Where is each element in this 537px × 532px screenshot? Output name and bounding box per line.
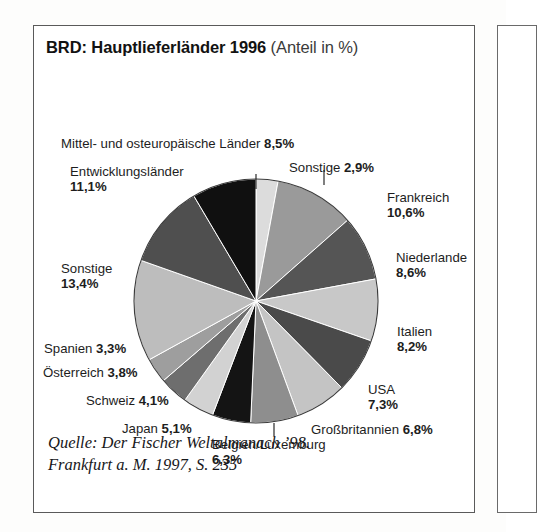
source-citation: Quelle: Der Fischer Weltalmanach ’98. Fr… xyxy=(48,432,310,476)
title-regular-part: (Anteil in %) xyxy=(271,38,359,56)
slice-label-grossbritannien: Großbritannien 6,8% xyxy=(311,422,433,438)
page-title: BRD: Hauptlieferländer 1996 (Anteil in %… xyxy=(46,38,358,57)
adjacent-column-box xyxy=(497,25,537,513)
slice-label-schweiz: Schweiz 4,1% xyxy=(86,393,169,409)
title-bold-part: BRD: Hauptlieferländer 1996 xyxy=(46,38,266,56)
pie-slices xyxy=(134,179,378,423)
slice-label-entwicklungslaender: Entwicklungsländer 11,1% xyxy=(70,164,184,195)
slice-label-niederlande: Niederlande 8,6% xyxy=(396,250,467,281)
figure-box: BRD: Hauptlieferländer 1996 (Anteil in %… xyxy=(33,25,475,513)
source-line-2: Frankfurt a. M. 1997, S. 235 xyxy=(48,454,310,476)
slice-label-italien: Italien 8,2% xyxy=(397,324,432,355)
slice-label-sonstige-left: Sonstige 13,4% xyxy=(61,261,112,292)
pie-chart: Mittel- und osteuropäische Länder 8,5% S… xyxy=(34,66,474,436)
slice-label-oesterreich: Österreich 3,8% xyxy=(43,365,138,381)
slice-label-sonstige-top: Sonstige 2,9% xyxy=(289,160,374,176)
slice-label-frankreich: Frankreich 10,6% xyxy=(387,190,449,221)
source-line-1: Quelle: Der Fischer Weltalmanach ’98. xyxy=(48,432,310,454)
slice-label-usa: USA 7,3% xyxy=(368,382,398,413)
slice-label-mittel-und-osteuropaeische-laender: Mittel- und osteuropäische Länder 8,5% xyxy=(61,136,294,152)
slice-label-spanien: Spanien 3,3% xyxy=(44,341,126,357)
